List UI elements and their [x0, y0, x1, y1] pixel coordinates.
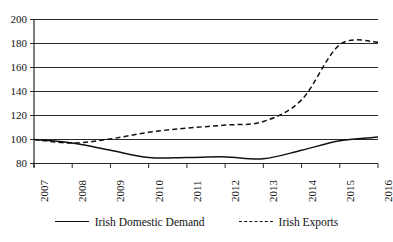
x-axis-ticks — [34, 164, 378, 169]
x-axis-tick-label: 2015 — [345, 180, 356, 202]
y-axis-tick-label: 140 — [1, 86, 27, 97]
x-axis-tick-label: 2014 — [307, 180, 318, 202]
legend-label: Irish Exports — [279, 216, 339, 228]
y-axis-ticks — [30, 20, 34, 164]
x-axis-tick-label: 2007 — [39, 180, 50, 202]
series-lines — [34, 40, 378, 159]
x-axis-tick-label: 2008 — [77, 180, 88, 202]
chart-legend: Irish Domestic Demand Irish Exports — [0, 216, 393, 238]
legend-item-irish-exports: Irish Exports — [239, 216, 339, 228]
y-axis-tick-label: 200 — [1, 14, 27, 25]
x-axis-tick-label: 2016 — [383, 180, 393, 202]
y-axis-tick-label: 180 — [1, 38, 27, 49]
legend-item-irish-domestic-demand: Irish Domestic Demand — [55, 216, 205, 228]
series-line-irish-domestic-demand — [34, 137, 378, 159]
y-axis-tick-label: 100 — [1, 134, 27, 145]
legend-dashed-line-icon — [239, 218, 273, 226]
legend-solid-line-icon — [55, 218, 89, 226]
y-axis-tick-label: 80 — [1, 158, 27, 169]
x-axis-tick-label: 2013 — [268, 180, 279, 202]
x-axis-tick-label: 2010 — [154, 180, 165, 202]
chart-plot-area — [0, 0, 393, 242]
x-axis-tick-label: 2011 — [192, 180, 203, 202]
y-axis-tick-label: 120 — [1, 110, 27, 121]
x-axis-tick-label: 2012 — [230, 180, 241, 202]
y-axis-tick-label: 160 — [1, 62, 27, 73]
chart-container: 20018016014012010080 2007200820092010201… — [0, 0, 393, 242]
x-axis-tick-label: 2009 — [115, 180, 126, 202]
legend-label: Irish Domestic Demand — [95, 216, 205, 228]
